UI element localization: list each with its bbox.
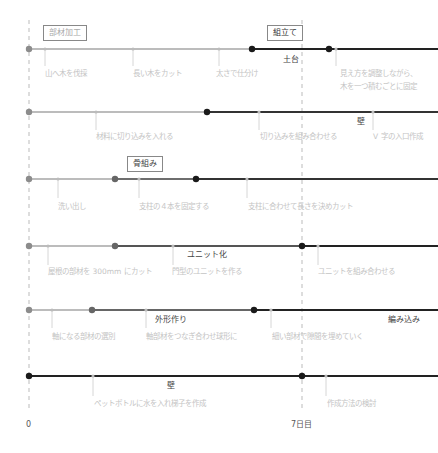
- phase-label-wall: 壁: [357, 118, 365, 126]
- milestone-dot: [193, 176, 199, 182]
- task-label: 山へ木を伐採: [45, 70, 87, 78]
- milestone-dot: [26, 307, 32, 313]
- milestone-dot: [249, 46, 255, 52]
- task-label: 細い部材で隙間を埋めていく: [272, 333, 363, 341]
- milestone-dot: [112, 243, 118, 249]
- task-label: ペットボトルに水を入れ梯子を作成: [94, 400, 206, 408]
- phase-box-assembly: 組立て: [267, 25, 303, 41]
- milestone-dot: [204, 109, 210, 115]
- task-label: 軸になる部材の選別: [52, 333, 115, 341]
- task-label: 軸部材をつなぎ合わせ球形に: [146, 333, 237, 341]
- phase-box-framework: 骨組み: [127, 156, 163, 172]
- row-5: [26, 307, 438, 328]
- task-label: 太さで仕分け: [216, 70, 258, 78]
- milestone-dot: [89, 307, 95, 313]
- task-label: 木を一つ積むごとに固定: [340, 83, 417, 91]
- milestone-dot: [299, 243, 305, 249]
- milestone-dot: [26, 243, 32, 249]
- task-label: 材料に切り込みを入れる: [96, 133, 173, 141]
- timeline-graphics: [0, 0, 438, 453]
- milestone-dot: [26, 176, 32, 182]
- task-label: 長い木をカット: [133, 70, 182, 78]
- task-label: 切り込みを組み合わせる: [260, 133, 337, 141]
- task-label: 洗い出し: [58, 203, 86, 211]
- milestone-dot: [326, 46, 332, 52]
- milestone-dot: [26, 373, 32, 379]
- task-label: ユニットを組み合わせる: [318, 268, 395, 276]
- task-label: 支柱に合わせて長さを決めカット: [248, 203, 353, 211]
- timeline-chart: 部材加工 組立て 土台 山へ木を伐採 長い木をカット 太さで仕分け 見え方を調整…: [0, 0, 438, 453]
- milestone-dot: [251, 307, 257, 313]
- row-6: [26, 373, 438, 396]
- task-label: 作成方法の検討: [327, 400, 376, 408]
- task-label: V 字の入口作成: [373, 133, 423, 141]
- row-1: [26, 46, 438, 66]
- row-3: [26, 176, 438, 198]
- milestone-dot: [26, 109, 32, 115]
- phase-label-foundation: 土台: [283, 56, 299, 64]
- milestone-dot: [299, 373, 305, 379]
- task-label: 支柱の４本を固定する: [139, 203, 209, 211]
- phase-label-wall: 壁: [167, 382, 175, 390]
- axis-tick-day-7: 7日目: [291, 421, 312, 429]
- milestone-dot: [26, 46, 32, 52]
- phase-label-weaving: 編み込み: [388, 316, 420, 324]
- row-2: [26, 109, 438, 130]
- milestone-dot: [112, 176, 118, 182]
- task-label: 見え方を調整しながら、: [340, 70, 417, 78]
- task-label: 屋根の部材を 300mm にカット: [48, 268, 152, 276]
- row-4: [26, 243, 438, 265]
- axis-tick-day-0: 0: [26, 421, 31, 429]
- phase-label-unitization: ユニット化: [187, 251, 227, 259]
- task-label: 門型のユニットを作る: [172, 268, 242, 276]
- phase-box-parts-processing: 部材加工: [43, 25, 87, 41]
- phase-label-outer-shape: 外形作り: [155, 316, 187, 324]
